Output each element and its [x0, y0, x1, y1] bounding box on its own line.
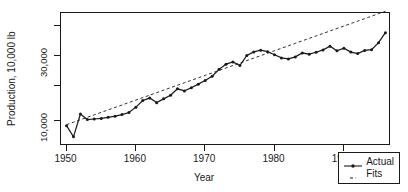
series-paths — [61, 13, 391, 146]
data-point — [377, 41, 380, 44]
x-axis-tick-label: 1950 — [46, 153, 86, 164]
data-point — [176, 87, 179, 90]
data-point — [197, 83, 200, 86]
data-point — [127, 111, 130, 114]
legend-key-solid-line-icon — [343, 157, 363, 167]
data-point — [322, 48, 325, 51]
data-point — [342, 47, 345, 50]
data-point — [204, 79, 207, 82]
data-point — [107, 116, 110, 119]
y-axis-title: Production, 10,000 lb — [6, 12, 17, 145]
legend-label-actual: Actual — [366, 157, 394, 167]
data-point — [238, 64, 241, 67]
data-point — [155, 101, 158, 104]
data-point — [280, 56, 283, 59]
data-point — [328, 45, 331, 48]
data-point — [79, 113, 82, 116]
data-point — [169, 94, 172, 97]
data-point — [370, 48, 373, 51]
data-point — [72, 135, 75, 138]
data-point — [148, 97, 151, 100]
legend-entry-actual: Actual — [343, 156, 394, 168]
data-point — [183, 89, 186, 92]
data-point — [384, 31, 387, 34]
data-point — [225, 63, 228, 66]
data-point — [190, 86, 193, 89]
data-point — [245, 54, 248, 57]
data-point — [273, 53, 276, 56]
data-point — [363, 49, 366, 52]
y-axis-tick-label: 10,000 — [38, 98, 49, 142]
plot-area — [60, 12, 390, 145]
chart-container: Production, 10,000 lb 10,00030,000 19501… — [0, 0, 408, 192]
data-point — [141, 99, 144, 102]
data-point — [259, 49, 262, 52]
x-axis-tick-label: 1960 — [115, 153, 155, 164]
data-point — [211, 75, 214, 78]
y-axis-tick-label: 30,000 — [38, 33, 49, 77]
data-point — [162, 97, 165, 100]
x-axis-tick-label: 1970 — [184, 153, 224, 164]
data-point — [287, 57, 290, 60]
data-point — [134, 106, 137, 109]
data-point — [121, 113, 124, 116]
data-point — [252, 50, 255, 53]
data-point — [335, 49, 338, 52]
data-point — [93, 118, 96, 121]
x-axis-title: Year — [0, 172, 408, 183]
series-line-actual — [67, 33, 386, 137]
data-point — [231, 60, 234, 63]
data-point — [301, 52, 304, 55]
series-line-fits — [67, 11, 386, 124]
data-point — [294, 55, 297, 58]
data-point — [100, 117, 103, 120]
data-point — [86, 118, 89, 121]
data-point — [114, 115, 117, 118]
data-point — [349, 51, 352, 54]
x-axis-tick-label: 1980 — [254, 153, 294, 164]
data-point — [315, 51, 318, 54]
data-point — [308, 53, 311, 56]
data-point — [356, 52, 359, 55]
